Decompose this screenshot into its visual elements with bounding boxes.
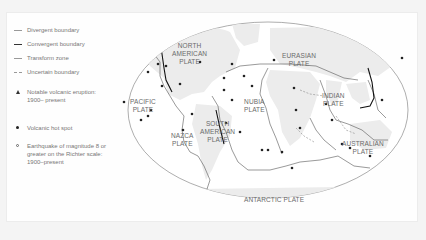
legend-label: Divergent boundary	[27, 26, 79, 34]
label-south-american-plate: SOUTHAMERICANPLATE	[200, 120, 235, 144]
legend-earthquake: Earthquake of magnitude 8 or greater on …	[14, 142, 124, 166]
tectonic-map-graphic	[120, 20, 416, 220]
label-eurasian-plate: EURASIANPLATE	[282, 52, 316, 68]
open-circle-icon	[14, 142, 22, 150]
label-indian-plate: INDIANPLATE	[322, 92, 345, 108]
legend-label: Transform zone	[27, 54, 69, 62]
legend-divergent: Divergent boundary	[14, 26, 124, 34]
convergent-line-icon	[14, 40, 22, 48]
label-nazca-plate: NAZCAPLATE	[171, 132, 194, 148]
divergent-line-icon	[14, 26, 22, 34]
legend-convergent: Convergent boundary	[14, 40, 124, 48]
legend-transform: Transform zone	[14, 54, 124, 62]
world-map: NORTHAMERICANPLATE EURASIANPLATE PACIFIC…	[120, 20, 416, 220]
label-pacific-plate: PACIFICPLATE	[130, 98, 156, 114]
legend-label: Earthquake of magnitude 8 or greater on …	[27, 142, 113, 166]
triangle-icon	[14, 88, 22, 96]
uncertain-line-icon	[14, 68, 22, 76]
transform-line-icon	[14, 54, 22, 62]
label-north-american-plate: NORTHAMERICANPLATE	[172, 42, 207, 66]
legend-hot-spot: Volcanic hot spot	[14, 124, 124, 132]
dot-icon	[14, 124, 22, 132]
legend-uncertain: Uncertain boundary	[14, 68, 124, 76]
legend-label: Notable volcanic eruption: 1900– present	[27, 88, 107, 104]
label-antarctic-plate: ANTARCTIC PLATE	[244, 196, 304, 204]
legend-label: Convergent boundary	[27, 40, 85, 48]
label-nubia-plate: NUBIAPLATE	[244, 98, 265, 114]
map-legend: Divergent boundary Convergent boundary T…	[14, 26, 124, 172]
legend-volcanic-eruption: Notable volcanic eruption: 1900– present	[14, 88, 124, 104]
label-australian-plate: AUSTRALIANPLATE	[342, 140, 384, 156]
legend-label: Uncertain boundary	[27, 68, 79, 76]
legend-label: Volcanic hot spot	[27, 124, 72, 132]
